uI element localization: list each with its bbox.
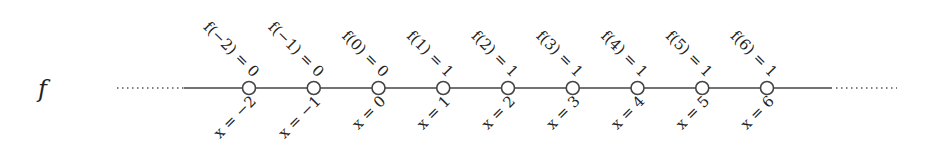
x-value-label: x = −1 bbox=[275, 92, 325, 142]
node-circle bbox=[502, 82, 515, 95]
node-circle bbox=[566, 82, 579, 95]
x-value-label: x = 3 bbox=[542, 92, 583, 133]
f-value-label: f(3) = 1 bbox=[533, 27, 587, 81]
node-circle bbox=[243, 82, 256, 95]
f-value-label: f(5) = 1 bbox=[662, 27, 716, 81]
node-circle bbox=[761, 82, 774, 95]
x-value-label: x = 4 bbox=[607, 92, 648, 133]
x-value-label: x = 1 bbox=[413, 92, 454, 133]
x-value-label: x = −2 bbox=[210, 92, 260, 142]
f-value-label: f(6) = 1 bbox=[727, 27, 781, 81]
node-circle bbox=[631, 82, 644, 95]
f-value-label: f(−2) = 0 bbox=[200, 18, 263, 81]
function-label: f bbox=[36, 75, 51, 103]
f-value-label: f(0) = 0 bbox=[338, 27, 392, 81]
f-value-label: f(2) = 1 bbox=[468, 27, 522, 81]
node-circle bbox=[696, 82, 709, 95]
f-value-label: f(−1) = 0 bbox=[265, 18, 328, 81]
node-circle bbox=[372, 82, 385, 95]
f-value-label: f(4) = 1 bbox=[597, 27, 651, 81]
node-circle bbox=[437, 82, 450, 95]
x-value-label: x = 6 bbox=[737, 92, 778, 133]
x-value-label: x = 2 bbox=[478, 92, 519, 133]
f-value-label: f(1) = 1 bbox=[403, 27, 457, 81]
x-value-label: x = 0 bbox=[348, 92, 389, 133]
function-diagram: f f(−2) = 0x = −2f(−1) = 0x = −1f(0) = 0… bbox=[0, 0, 933, 156]
node-circle bbox=[307, 82, 320, 95]
x-value-label: x = 5 bbox=[672, 92, 713, 133]
